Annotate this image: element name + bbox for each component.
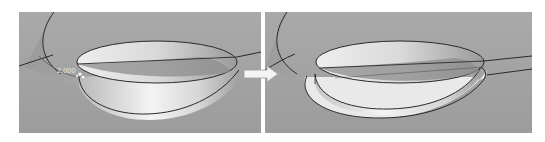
before-shape-illustration bbox=[19, 12, 261, 133]
viewport-after bbox=[265, 12, 532, 133]
right-arrow-icon bbox=[243, 66, 279, 82]
dimension-label: 2.000 bbox=[57, 67, 76, 74]
after-shape-illustration bbox=[265, 12, 532, 133]
viewport-before: 2.000 bbox=[19, 12, 261, 133]
